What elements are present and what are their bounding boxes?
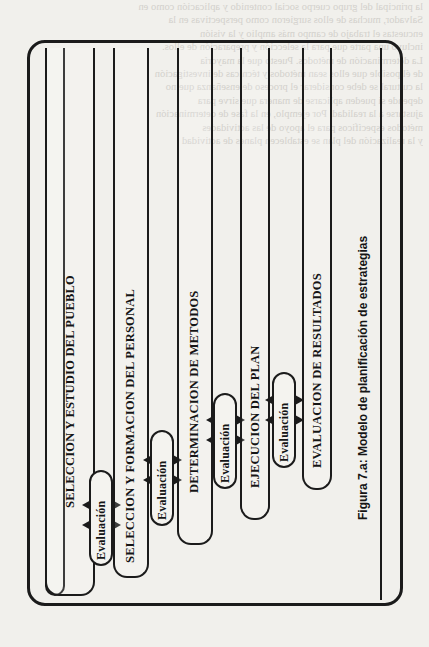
stage-3-label: DETERMINACION DE METODOS bbox=[187, 290, 202, 493]
caption-divider bbox=[380, 48, 382, 600]
stage-1-label: SELECCION Y ESTUDIO DEL PUEBLO bbox=[63, 275, 78, 508]
stage-4-pill: EJECUCION DEL PLAN bbox=[240, 48, 270, 520]
bleed-line: Salvador, muchas de ellos surgieron como… bbox=[0, 13, 423, 26]
stage-5-pill: EVALUACION DE RESULTADOS bbox=[302, 48, 332, 490]
arrow-triangle bbox=[206, 435, 215, 445]
stage-5-label: EVALUACION DE RESULTADOS bbox=[310, 273, 325, 468]
arrow-triangle bbox=[265, 415, 274, 425]
bleed-line: encuestas el trabajo de campo más amplio… bbox=[0, 27, 423, 40]
evaluation-pill-3: Evaluación bbox=[213, 393, 237, 489]
evaluation-label: Evaluación bbox=[277, 403, 292, 462]
arrow-triangle bbox=[265, 395, 274, 405]
bleed-line: la principal del grupo cuerpo social con… bbox=[0, 0, 423, 13]
stage-4-label: EJECUCION DEL PLAN bbox=[248, 345, 263, 488]
evaluation-pill-4: Evaluación bbox=[272, 372, 296, 468]
evaluation-label: Evaluación bbox=[94, 501, 109, 560]
arrow-triangle bbox=[82, 500, 91, 510]
stage-2-label: SELECCION Y FORMACION DEL PERSONAL bbox=[123, 289, 138, 563]
stage-3-pill: DETERMINACION DE METODOS bbox=[177, 48, 213, 545]
arrow-triangle bbox=[143, 475, 152, 485]
stage-1-pill: SELECCION Y ESTUDIO DEL PUEBLO bbox=[45, 48, 95, 596]
evaluation-label: Evaluación bbox=[155, 461, 170, 520]
arrow-triangle bbox=[206, 415, 215, 425]
evaluation-pill-1: Evaluación bbox=[89, 470, 113, 566]
arrow-triangle bbox=[143, 455, 152, 465]
arrow-triangle bbox=[82, 520, 91, 530]
stage-2-pill: SELECCION Y FORMACION DEL PERSONAL bbox=[113, 48, 149, 578]
evaluation-pill-2: Evaluación bbox=[150, 430, 174, 526]
figure-caption: Figura 7.a: Modelo de planificación de e… bbox=[356, 236, 370, 520]
evaluation-label: Evaluación bbox=[218, 424, 233, 483]
